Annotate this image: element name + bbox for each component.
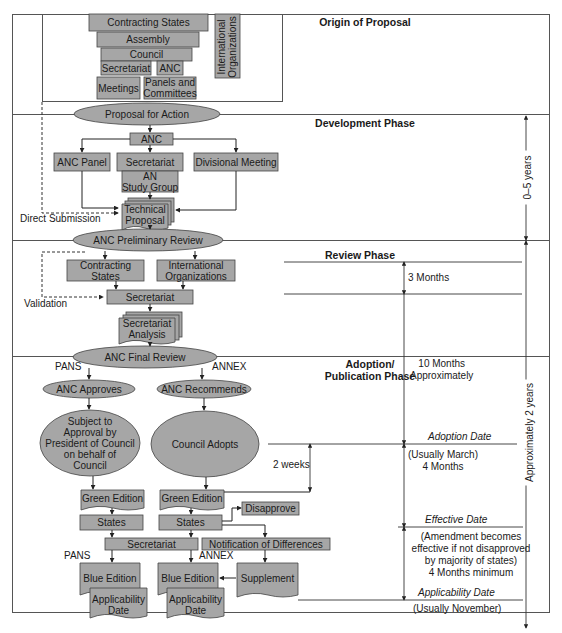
node-anc-origin: ANC <box>157 61 183 75</box>
node-disapprove: Disapprove <box>242 502 299 515</box>
label-ten-months: 10 Months Approximately <box>410 358 473 382</box>
node-states-annex: States <box>159 515 222 530</box>
node-international-organizations-origin: International Organizations <box>216 15 240 79</box>
node-secretariat-origin: Secretariat <box>101 61 151 75</box>
four-months-line: 4 Months <box>408 461 478 473</box>
label-effective-date: Effective Date <box>425 514 487 526</box>
intl-review-line1: International <box>168 260 223 271</box>
node-blue-edition-pans: Blue Edition <box>80 570 140 586</box>
label-direct-submission: Direct Submission <box>20 213 101 225</box>
amend-line3: by majority of states) <box>405 555 537 567</box>
label-amendment-note: (Amendment becomes effective if not disa… <box>405 531 537 579</box>
usually-march-line: (Usually March) <box>408 449 478 461</box>
label-two-weeks: 2 weeks <box>273 459 310 471</box>
node-secretariat-review: Secretariat <box>107 290 193 304</box>
node-subject-to-approval: Subject to Approval by President of Coun… <box>40 411 140 475</box>
amend-line2: effective if not disapproved <box>405 543 537 555</box>
amend-line1: (Amendment becomes <box>405 531 537 543</box>
node-council-adopts: Council Adopts <box>151 436 259 452</box>
node-anc-development: ANC <box>130 133 173 145</box>
contracting-review-line2: States <box>91 271 119 282</box>
node-supplement: Supplement <box>237 570 298 586</box>
subject-line2: Approval by <box>64 427 117 438</box>
subject-line1: Subject to <box>68 416 112 427</box>
node-green-edition-pans: Green Edition <box>81 490 144 506</box>
label-usually-november: (Usually November) <box>413 603 501 615</box>
amend-line4: 4 Months minimum <box>405 567 537 579</box>
node-proposal-for-action: Proposal for Action <box>74 106 220 122</box>
applic-pans-line1: Applicability <box>92 594 145 605</box>
node-secretariat-adoption: Secretariat <box>105 538 198 550</box>
node-an-study-group: AN Study Group <box>122 171 178 192</box>
node-applicability-date-annex: Applicability Date <box>167 594 224 616</box>
intl-review-line2: Organizations <box>165 271 227 282</box>
node-panels-committees: Panels and Committees <box>144 77 196 99</box>
phase-title-development: Development Phase <box>300 117 430 129</box>
node-international-organizations-review: International Organizations <box>157 260 235 281</box>
node-states-pans: States <box>80 515 143 530</box>
analysis-line2: Analysis <box>128 329 165 340</box>
ten-months-line2: Approximately <box>410 370 473 382</box>
node-secretariat-development: Secretariat <box>117 153 183 171</box>
contracting-review-line1: Contracting <box>80 260 131 271</box>
node-contracting-states-review: Contracting States <box>67 260 144 281</box>
applic-annex-line1: Applicability <box>169 594 222 605</box>
an-study-line1: AN <box>143 171 157 182</box>
label-approximately-two-years: Approximately 2 years <box>524 380 535 486</box>
phase-title-origin: Origin of Proposal <box>300 16 430 28</box>
label-annex-bottom: ANNEX <box>199 550 233 562</box>
ten-months-line1: 10 Months <box>410 358 473 370</box>
label-three-months: 3 Months <box>408 272 449 284</box>
label-pans-bottom: PANS <box>64 550 91 562</box>
technical-line1: Technical <box>124 204 166 215</box>
intl-origin-line1: International <box>216 15 227 79</box>
node-notification-of-differences: Notification of Differences <box>202 538 330 550</box>
node-anc-approves: ANC Approves <box>43 381 135 397</box>
node-anc-final-review: ANC Final Review <box>73 349 217 365</box>
label-zero-to-five-years: 0–5 years <box>522 151 533 205</box>
node-green-edition-annex: Green Edition <box>160 490 224 506</box>
node-meetings: Meetings <box>97 77 140 99</box>
panels-line1: Panels and <box>145 77 195 88</box>
node-anc-recommends: ANC Recommends <box>157 381 251 397</box>
subject-line5: Council <box>73 460 106 471</box>
intl-origin-line2: Organizations <box>227 15 238 79</box>
node-blue-edition-annex: Blue Edition <box>158 570 218 586</box>
analysis-line1: Secretariat <box>123 318 171 329</box>
technical-line2: Proposal <box>125 215 164 226</box>
panels-line2: Committees <box>143 88 196 99</box>
phase-title-review: Review Phase <box>310 249 410 261</box>
subject-line3: President of Council <box>45 438 135 449</box>
label-annex-top: ANNEX <box>212 361 246 373</box>
node-secretariat-analysis: Secretariat Analysis <box>119 318 175 340</box>
applic-annex-line2: Date <box>185 605 206 616</box>
label-adoption-date: Adoption Date <box>428 431 491 443</box>
label-applicability-date: Applicability Date <box>418 587 495 599</box>
subject-line4: on behalf of <box>64 449 116 460</box>
an-study-line2: Study Group <box>122 182 178 193</box>
node-anc-panel: ANC Panel <box>54 153 110 171</box>
applic-pans-line2: Date <box>108 605 129 616</box>
label-usually-march: (Usually March) 4 Months <box>408 449 478 473</box>
label-pans-top: PANS <box>55 361 82 373</box>
node-council: Council <box>101 48 192 61</box>
node-assembly: Assembly <box>97 32 199 47</box>
node-anc-preliminary-review: ANC Preliminary Review <box>73 232 223 248</box>
node-applicability-date-pans: Applicability Date <box>90 594 147 616</box>
label-validation: Validation <box>24 298 67 310</box>
node-technical-proposal: Technical Proposal <box>122 204 168 226</box>
node-contracting-states: Contracting States <box>89 14 208 31</box>
node-divisional-meeting: Divisional Meeting <box>194 153 278 171</box>
